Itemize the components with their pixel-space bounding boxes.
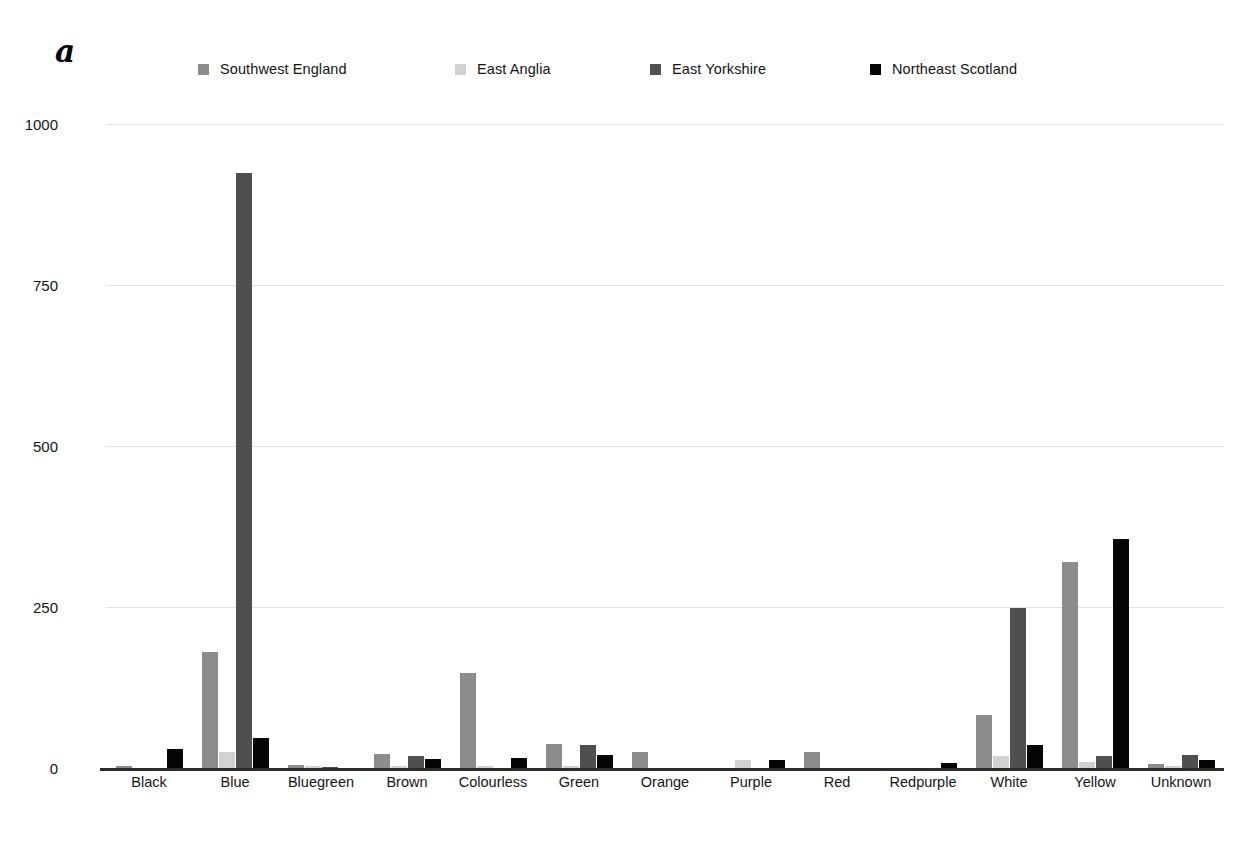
bar[interactable] <box>804 752 820 768</box>
bar-cluster <box>794 124 880 768</box>
bar-group: Purple <box>708 124 794 768</box>
x-axis-tick-label: Red <box>824 774 851 790</box>
bar[interactable] <box>941 763 957 768</box>
bar[interactable] <box>1148 764 1164 769</box>
chart-legend: Southwest EnglandEast AngliaEast Yorkshi… <box>198 58 1138 80</box>
bar-group: Unknown <box>1138 124 1224 768</box>
legend-swatch-icon <box>198 64 209 75</box>
bar-cluster <box>966 124 1052 768</box>
bar[interactable] <box>735 760 751 768</box>
bar-group: Yellow <box>1052 124 1138 768</box>
bar[interactable] <box>1165 766 1181 768</box>
bar[interactable] <box>167 749 183 768</box>
bar-group: Green <box>536 124 622 768</box>
bar[interactable] <box>563 766 579 768</box>
bar[interactable] <box>1113 539 1129 768</box>
bar[interactable] <box>477 766 493 768</box>
legend-label: East Yorkshire <box>672 61 766 77</box>
bar[interactable] <box>1182 755 1198 768</box>
bar[interactable] <box>253 738 269 768</box>
bar-group: White <box>966 124 1052 768</box>
x-axis-tick-label: Brown <box>386 774 427 790</box>
bar[interactable] <box>305 766 321 768</box>
bar-cluster <box>450 124 536 768</box>
bar[interactable] <box>219 752 235 768</box>
legend-label: East Anglia <box>477 61 551 77</box>
bar[interactable] <box>511 758 527 768</box>
bar[interactable] <box>408 756 424 768</box>
bar-group: Redpurple <box>880 124 966 768</box>
x-axis-tick-label: Colourless <box>459 774 528 790</box>
bar-group: Red <box>794 124 880 768</box>
bar-cluster <box>880 124 966 768</box>
bar-cluster <box>622 124 708 768</box>
bar[interactable] <box>288 765 304 768</box>
bar-cluster <box>106 124 192 768</box>
bar[interactable] <box>202 652 218 768</box>
x-axis-tick-label: White <box>990 774 1027 790</box>
bar[interactable] <box>632 752 648 768</box>
x-axis-tick-label: Orange <box>641 774 689 790</box>
legend-label: Northeast Scotland <box>892 61 1017 77</box>
x-axis-tick-label: Green <box>559 774 599 790</box>
bar[interactable] <box>1010 608 1026 768</box>
bar[interactable] <box>236 173 252 768</box>
bar-cluster <box>708 124 794 768</box>
bar[interactable] <box>976 715 992 768</box>
legend-label: Southwest England <box>220 61 347 77</box>
bar-cluster <box>1052 124 1138 768</box>
y-axis-tick-label: 500 <box>0 438 58 455</box>
x-axis-tick-label: Blue <box>220 774 249 790</box>
bar[interactable] <box>546 744 562 768</box>
legend-swatch-icon <box>650 64 661 75</box>
bar[interactable] <box>993 756 1009 768</box>
bar-group: Brown <box>364 124 450 768</box>
x-axis-tick-label: Redpurple <box>890 774 957 790</box>
legend-item[interactable]: East Anglia <box>455 58 551 80</box>
y-axis-tick-label: 750 <box>0 277 58 294</box>
plot-area: 02505007501000BlackBlueBluegreenBrownCol… <box>106 124 1224 768</box>
x-axis-line <box>100 768 1224 771</box>
x-axis-tick-label: Yellow <box>1074 774 1115 790</box>
bar[interactable] <box>391 766 407 768</box>
x-axis-tick-label: Black <box>131 774 166 790</box>
bar-cluster <box>192 124 278 768</box>
bar-group: Black <box>106 124 192 768</box>
legend-item[interactable]: East Yorkshire <box>650 58 766 80</box>
bar[interactable] <box>580 745 596 768</box>
bar[interactable] <box>1096 756 1112 768</box>
y-axis-tick-label: 250 <box>0 599 58 616</box>
bar-cluster <box>536 124 622 768</box>
bar-group: Blue <box>192 124 278 768</box>
bar[interactable] <box>769 760 785 768</box>
y-axis-tick-label: 1000 <box>0 116 58 133</box>
legend-swatch-icon <box>455 64 466 75</box>
bar-group: Colourless <box>450 124 536 768</box>
legend-swatch-icon <box>870 64 881 75</box>
panel-letter: a <box>55 36 75 67</box>
bar[interactable] <box>322 767 338 768</box>
bar[interactable] <box>460 673 476 768</box>
bar[interactable] <box>1199 760 1215 768</box>
bar-cluster <box>278 124 364 768</box>
legend-item[interactable]: Southwest England <box>198 58 347 80</box>
legend-item[interactable]: Northeast Scotland <box>870 58 1017 80</box>
x-axis-tick-label: Purple <box>730 774 772 790</box>
bar[interactable] <box>374 754 390 768</box>
bar[interactable] <box>597 755 613 768</box>
x-axis-tick-label: Bluegreen <box>288 774 354 790</box>
bar[interactable] <box>1079 762 1095 768</box>
bar[interactable] <box>425 759 441 768</box>
bar[interactable] <box>1027 745 1043 768</box>
bar-cluster <box>364 124 450 768</box>
x-axis-tick-label: Unknown <box>1151 774 1211 790</box>
y-axis-tick-label: 0 <box>0 760 58 777</box>
bar-group: Bluegreen <box>278 124 364 768</box>
bar-group: Orange <box>622 124 708 768</box>
bar-cluster <box>1138 124 1224 768</box>
bar[interactable] <box>1062 562 1078 768</box>
figure-panel-a: a Southwest EnglandEast AngliaEast Yorks… <box>0 0 1254 863</box>
bar[interactable] <box>116 766 132 768</box>
